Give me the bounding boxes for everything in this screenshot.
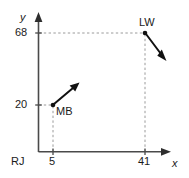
y-axis-label: y — [20, 12, 26, 23]
x-axis-label: x — [172, 158, 178, 169]
x-tick-label-41: 41 — [138, 156, 150, 167]
point-label-lw: LW — [139, 17, 155, 28]
origin-label-rj: RJ — [11, 156, 24, 167]
vector-line-lw — [146, 34, 161, 54]
x-tick-label-5: 5 — [49, 156, 55, 167]
point-label-mb: MB — [56, 106, 73, 117]
y-tick-label-20: 20 — [15, 99, 27, 110]
vector-line-mb — [54, 88, 73, 104]
y-tick-label-68: 68 — [15, 27, 27, 38]
scatter-plot-figure: y x RJ 68 20 5 41 MB LW — [0, 0, 189, 178]
x-axis-arrowhead — [161, 148, 171, 156]
y-axis-arrowhead — [35, 12, 43, 22]
plot-canvas — [0, 0, 189, 178]
